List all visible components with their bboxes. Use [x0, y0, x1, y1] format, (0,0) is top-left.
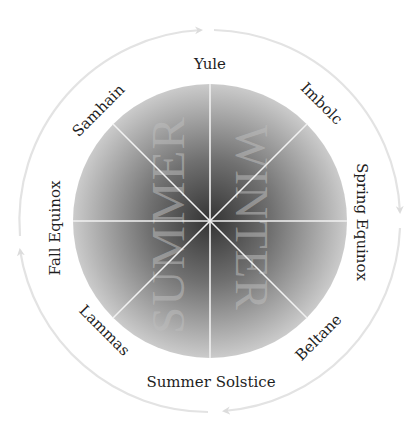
festival-label-yule: Yule	[193, 55, 226, 73]
festival-label-spring-equinox: Spring Equinox	[353, 163, 371, 282]
festival-label-summer-solstice: Summer Solstice	[146, 373, 275, 391]
festival-label-imbolc: Imbolc	[297, 79, 346, 128]
wheel-of-the-year-diagram: SUMMER WINTER Yule Imbolc Spring Equinox…	[0, 0, 412, 435]
wheel-spokes	[73, 84, 347, 358]
season-label-summer: SUMMER	[143, 116, 194, 334]
season-label-winter: WINTER	[226, 125, 277, 311]
festival-label-fall-equinox: Fall Equinox	[46, 180, 64, 275]
